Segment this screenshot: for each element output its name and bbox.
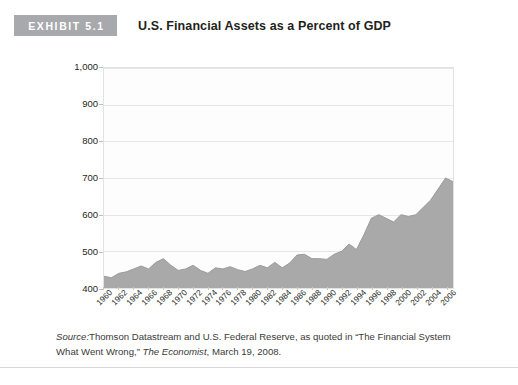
x-tick-label-1994: 1994: [349, 288, 368, 307]
figure-bottom-rule: [0, 367, 518, 368]
x-tick-mark-1994: [357, 287, 358, 290]
x-tick-mark-1992: [342, 287, 343, 290]
source-text-line2a: What Went Wrong,”: [56, 346, 143, 357]
x-tick-label-2002: 2002: [409, 288, 428, 307]
x-tick-label-1972: 1972: [184, 288, 203, 307]
x-tick-mark-1960: [103, 287, 104, 290]
x-axis: 1960196219641966196819701972197419761978…: [103, 290, 454, 330]
x-tick-mark-1986: [297, 287, 298, 290]
x-tick-mark-1980: [252, 287, 253, 290]
x-tick-mark-1998: [387, 287, 388, 290]
x-tick-mark-1964: [133, 287, 134, 290]
x-tick-mark-1996: [372, 287, 373, 290]
x-tick-mark-1966: [148, 287, 149, 290]
chart-container: 4005006007008009001,000 1960196219641966…: [56, 58, 466, 310]
x-tick-label-1970: 1970: [170, 288, 189, 307]
source-text-line1: Thomson Datastream and U.S. Federal Rese…: [89, 331, 451, 342]
x-tick-label-1962: 1962: [110, 288, 129, 307]
x-tick-mark-2004: [432, 287, 433, 290]
x-tick-label-1968: 1968: [155, 288, 174, 307]
y-tick-label-600: 600: [56, 210, 98, 220]
x-tick-mark-1984: [282, 287, 283, 290]
series-area: [104, 178, 453, 288]
source-publication: The Economist: [143, 346, 207, 357]
exhibit-header: EXHIBIT 5.1 U.S. Financial Assets as a P…: [14, 15, 391, 36]
figure-page: EXHIBIT 5.1 U.S. Financial Assets as a P…: [0, 0, 518, 385]
x-tick-label-1996: 1996: [364, 288, 383, 307]
page-title: U.S. Financial Assets as a Percent of GD…: [138, 19, 391, 33]
source-note: Source:Thomson Datastream and U.S. Feder…: [56, 330, 476, 359]
x-tick-mark-2002: [417, 287, 418, 290]
x-tick-label-1966: 1966: [140, 288, 159, 307]
x-tick-mark-1976: [222, 287, 223, 290]
x-tick-mark-1978: [237, 287, 238, 290]
source-label: Source:: [56, 331, 89, 342]
y-tick-label-400: 400: [56, 284, 98, 294]
x-tick-label-2006: 2006: [438, 288, 457, 307]
x-tick-mark-1970: [178, 287, 179, 290]
y-tick-label-800: 800: [56, 136, 98, 146]
y-axis: 4005006007008009001,000: [56, 58, 98, 298]
x-tick-mark-2000: [402, 287, 403, 290]
plot-area: [103, 67, 454, 289]
x-tick-mark-1988: [312, 287, 313, 290]
x-tick-mark-2006: [447, 287, 448, 290]
y-tick-label-700: 700: [56, 173, 98, 183]
x-tick-label-1998: 1998: [379, 288, 398, 307]
x-tick-mark-1968: [163, 287, 164, 290]
x-tick-label-2004: 2004: [423, 288, 442, 307]
x-tick-mark-1982: [267, 287, 268, 290]
exhibit-badge: EXHIBIT 5.1: [14, 15, 117, 36]
x-tick-mark-1990: [327, 287, 328, 290]
area-chart-svg: [104, 68, 453, 288]
x-tick-label-2000: 2000: [394, 288, 413, 307]
x-tick-mark-1972: [193, 287, 194, 290]
x-tick-label-1964: 1964: [125, 288, 144, 307]
y-tick-label-900: 900: [56, 99, 98, 109]
x-tick-mark-1962: [118, 287, 119, 290]
x-tick-mark-1974: [208, 287, 209, 290]
source-text-line2b: , March 19, 2008.: [207, 346, 282, 357]
y-tick-label-500: 500: [56, 247, 98, 257]
y-tick-label-1000: 1,000: [56, 62, 98, 72]
